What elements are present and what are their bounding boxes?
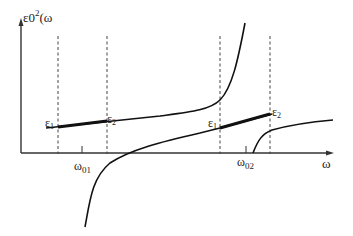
curve-upper-branch bbox=[46, 23, 245, 128]
omega02-label: ω02 bbox=[237, 155, 254, 171]
eps2-left-label: ε2 bbox=[107, 112, 116, 127]
dispersion-diagram: ε02(ω ω ω01 ω02 ε1 ε2 ε1 ε2 bbox=[0, 0, 353, 236]
segment-eps1-eps2-left bbox=[58, 121, 107, 127]
x-axis-arrow-icon bbox=[326, 151, 334, 156]
segment-eps1-eps2-right bbox=[220, 114, 270, 128]
curve-third-branch bbox=[253, 120, 333, 153]
eps1-left-label: ε1 bbox=[45, 116, 54, 131]
eps2-right-label: ε2 bbox=[272, 105, 281, 120]
x-axis-label: ω bbox=[322, 156, 331, 171]
eps1-right-label: ε1 bbox=[208, 116, 217, 131]
y-axis-label: ε02(ω bbox=[23, 8, 53, 25]
omega01-label: ω01 bbox=[74, 159, 91, 175]
